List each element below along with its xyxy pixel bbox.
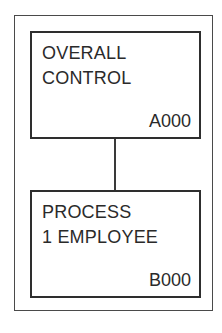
- connector-line: [114, 139, 116, 190]
- node-title-line: OVERALL: [42, 41, 131, 66]
- node-title-line: 1 EMPLOYEE: [42, 225, 158, 250]
- node-overall-control: OVERALL CONTROL A000: [30, 31, 201, 139]
- node-title: OVERALL CONTROL: [42, 41, 131, 91]
- node-code: A000: [149, 111, 191, 131]
- node-title-line: CONTROL: [42, 66, 131, 91]
- node-title-line: PROCESS: [42, 200, 158, 225]
- node-code: B000: [149, 270, 191, 290]
- node-title: PROCESS 1 EMPLOYEE: [42, 200, 158, 250]
- node-process-employee: PROCESS 1 EMPLOYEE B000: [30, 190, 201, 298]
